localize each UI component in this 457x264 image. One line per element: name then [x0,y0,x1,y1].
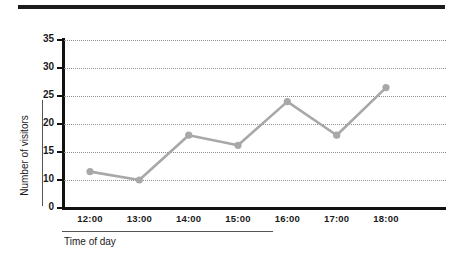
x-axis-title-rule [62,231,273,232]
data-point-1800 [382,84,389,91]
y-axis-title: Number of visitors [19,101,30,211]
x-tick-label-1500: 15:00 [225,213,250,224]
y-tick-mark-10 [57,179,62,181]
data-point-1300 [136,176,143,183]
visitors-series [64,40,446,208]
y-tick-mark-35 [57,39,62,41]
visitors-line-chart: Number of visitors 3530252015100 12:0013… [0,0,457,264]
data-point-1500 [234,142,241,149]
plot-area [64,40,446,208]
y-tick-label-25: 25 [30,89,54,100]
x-tick-label-1300: 13:00 [127,213,152,224]
y-tick-label-35: 35 [30,33,54,44]
data-point-1400 [185,132,192,139]
y-tick-mark-25 [57,95,62,97]
data-point-1200 [86,168,93,175]
y-tick-label-20: 20 [30,117,54,128]
y-tick-mark-30 [57,67,62,69]
x-tick-label-1700: 17:00 [324,213,349,224]
y-tick-mark-0 [57,207,62,209]
y-tick-mark-15 [57,151,62,153]
y-tick-mark-20 [57,123,62,125]
x-tick-label-1400: 14:00 [176,213,201,224]
series-line [90,88,386,180]
x-tick-label-1200: 12:00 [77,213,102,224]
x-tick-label-1800: 18:00 [373,213,398,224]
x-axis-title: Time of day [64,236,116,247]
y-tick-label-30: 30 [30,61,54,72]
chart-page: Number of visitors 3530252015100 12:0013… [0,0,457,264]
data-point-1600 [284,98,291,105]
x-tick-label-1600: 16:00 [275,213,300,224]
y-tick-label-0: 0 [30,201,54,212]
y-tick-label-15: 15 [30,145,54,156]
y-tick-label-10: 10 [30,173,54,184]
data-point-1700 [333,132,340,139]
